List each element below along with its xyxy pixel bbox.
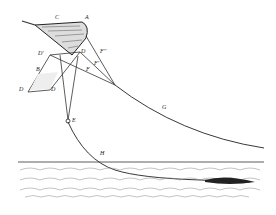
label-d-right: D bbox=[51, 86, 55, 92]
label-g: G bbox=[162, 104, 166, 110]
boat bbox=[205, 177, 255, 184]
label-f: F bbox=[86, 66, 90, 72]
label-e: E bbox=[72, 117, 76, 123]
tether-line-h bbox=[68, 122, 250, 182]
label-c: C bbox=[55, 14, 59, 20]
label-d-prime: D' bbox=[38, 50, 44, 56]
label-a: A bbox=[85, 14, 89, 20]
label-f-prime: F' bbox=[94, 60, 99, 66]
label-b: B bbox=[36, 66, 40, 72]
label-d-left: D bbox=[19, 86, 23, 92]
diagram-drawing bbox=[0, 0, 276, 215]
label-h: H bbox=[100, 150, 104, 156]
tether-line-g bbox=[115, 85, 264, 148]
kite-diagram: C A D' D F'' F' F B D D E G H bbox=[0, 0, 276, 215]
label-f-double-prime: F'' bbox=[100, 48, 106, 54]
label-d-upper: D bbox=[81, 48, 85, 54]
